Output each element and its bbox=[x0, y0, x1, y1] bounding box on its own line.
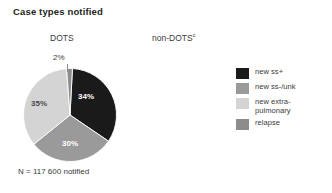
legend-item-label: new ss-/unk bbox=[255, 82, 296, 91]
column-heading-dots: DOTS bbox=[50, 33, 74, 43]
legend-item: new extra- pulmonary bbox=[236, 97, 328, 115]
legend-item: new ss-/unk bbox=[236, 82, 328, 94]
legend-item-label: new extra- pulmonary bbox=[255, 97, 290, 115]
pie-slice-label-new-ss-positive: 34% bbox=[78, 92, 94, 101]
page-title: Case types notified bbox=[13, 6, 103, 17]
legend-item-label: new ss+ bbox=[255, 67, 283, 76]
pie-slice-label-new-extra-pulmonary: 35% bbox=[31, 99, 47, 108]
legend-item-label: relapse bbox=[255, 118, 280, 127]
legend-swatch-icon bbox=[236, 68, 249, 79]
pie-caption-dots: N = 117 600 notified bbox=[18, 167, 89, 176]
column-heading-non-dots: non-DOTSc bbox=[152, 33, 195, 43]
relapse-label-leader-line bbox=[67, 64, 68, 72]
legend-swatch-icon bbox=[236, 83, 249, 94]
pie-slice-label-new-ss-negative-unknown: 30% bbox=[62, 139, 78, 148]
legend-swatch-icon bbox=[236, 119, 249, 130]
column-heading-non-dots-footnote-marker: c bbox=[193, 32, 196, 38]
column-heading-non-dots-text: non-DOTS bbox=[152, 33, 193, 43]
legend-item: new ss+ bbox=[236, 67, 328, 79]
legend-swatch-icon bbox=[236, 98, 249, 109]
legend-item: relapse bbox=[236, 118, 328, 130]
chart-legend: new ss+ new ss-/unk new extra- pulmonary… bbox=[236, 67, 328, 133]
pie-chart-non-dots bbox=[135, 68, 229, 162]
pie-slice-label-relapse: 2% bbox=[53, 53, 65, 62]
